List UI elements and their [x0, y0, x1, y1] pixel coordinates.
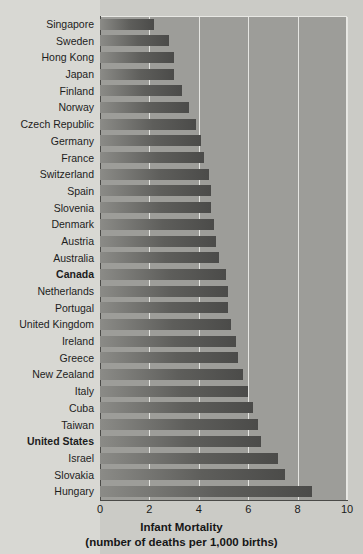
- category-label: Greece: [60, 350, 94, 366]
- bar-row: Denmark: [0, 216, 363, 232]
- bar: [100, 19, 154, 30]
- bar-row: Hong Kong: [0, 49, 363, 65]
- bar: [100, 286, 228, 297]
- x-axis-line: [100, 500, 348, 501]
- category-label: Cuba: [69, 400, 94, 416]
- bar-row: United Kingdom: [0, 316, 363, 332]
- bar: [100, 336, 236, 347]
- bar-row: Slovenia: [0, 200, 363, 216]
- bar-row: Italy: [0, 383, 363, 399]
- x-tick-label: 8: [295, 502, 301, 516]
- bar: [100, 319, 231, 330]
- category-label: Netherlands: [37, 283, 94, 299]
- bar-row: Hungary: [0, 483, 363, 499]
- chart-title: Infant Mortality: [0, 520, 363, 535]
- category-label: Hungary: [54, 483, 94, 499]
- bar: [100, 369, 243, 380]
- bar-row: Netherlands: [0, 283, 363, 299]
- bar: [100, 169, 209, 180]
- category-label: Czech Republic: [20, 116, 94, 132]
- bar: [100, 236, 216, 247]
- bar-row: Germany: [0, 133, 363, 149]
- bar: [100, 252, 219, 263]
- bar-row: Japan: [0, 66, 363, 82]
- category-label: Taiwan: [61, 417, 94, 433]
- x-tick-label: 0: [97, 502, 103, 516]
- category-label: Ireland: [62, 333, 94, 349]
- bar-row: Singapore: [0, 16, 363, 32]
- bar-row: Cuba: [0, 400, 363, 416]
- bar-row: Spain: [0, 183, 363, 199]
- category-label: Slovenia: [54, 200, 94, 216]
- category-label: Italy: [75, 383, 94, 399]
- bar-row: Canada: [0, 266, 363, 282]
- bar-row: Finland: [0, 83, 363, 99]
- bar: [100, 52, 174, 63]
- bar: [100, 202, 211, 213]
- bar: [100, 102, 189, 113]
- bar: [100, 469, 285, 480]
- category-label: Austria: [61, 233, 94, 249]
- bar: [100, 135, 201, 146]
- category-label: France: [61, 150, 94, 166]
- bar: [100, 453, 278, 464]
- bar-row: Austria: [0, 233, 363, 249]
- bar-row: France: [0, 150, 363, 166]
- category-label: Australia: [53, 250, 94, 266]
- category-label: Singapore: [46, 16, 94, 32]
- bar: [100, 152, 204, 163]
- bar-row: Greece: [0, 350, 363, 366]
- category-label: United Kingdom: [19, 316, 94, 332]
- bar-row: Israel: [0, 450, 363, 466]
- category-label: Sweden: [56, 33, 94, 49]
- bar: [100, 486, 312, 497]
- chart-subtitle: (number of deaths per 1,000 births): [0, 535, 363, 550]
- category-label: Finland: [60, 83, 94, 99]
- x-tick-label: 6: [245, 502, 251, 516]
- bar-row: Norway: [0, 99, 363, 115]
- category-label: Norway: [58, 99, 94, 115]
- category-label: United States: [27, 433, 94, 449]
- bar-row: Slovakia: [0, 467, 363, 483]
- bar-row: Czech Republic: [0, 116, 363, 132]
- category-label: Slovakia: [54, 467, 94, 483]
- bar-row: Portugal: [0, 300, 363, 316]
- bar: [100, 35, 169, 46]
- category-label: Switzerland: [40, 166, 94, 182]
- bar: [100, 402, 253, 413]
- category-label: Germany: [51, 133, 94, 149]
- bar: [100, 419, 258, 430]
- category-label: Japan: [65, 66, 94, 82]
- x-axis-tick-labels: 0246810: [0, 502, 363, 518]
- bar: [100, 185, 211, 196]
- bar-row: New Zealand: [0, 366, 363, 382]
- category-label: Israel: [68, 450, 94, 466]
- bar: [100, 352, 238, 363]
- category-label: New Zealand: [32, 366, 94, 382]
- infant-mortality-bar-chart: SingaporeSwedenHong KongJapanFinlandNorw…: [0, 0, 363, 554]
- bar: [100, 119, 196, 130]
- x-tick-label: 10: [341, 502, 353, 516]
- bar: [100, 302, 228, 313]
- bar-row: Switzerland: [0, 166, 363, 182]
- x-tick-label: 2: [146, 502, 152, 516]
- bar-row: Taiwan: [0, 417, 363, 433]
- bar-row: Sweden: [0, 33, 363, 49]
- category-label: Denmark: [51, 216, 94, 232]
- bar-row: Ireland: [0, 333, 363, 349]
- bar-row: United States: [0, 433, 363, 449]
- category-label: Portugal: [55, 300, 94, 316]
- bar: [100, 269, 226, 280]
- category-label: Canada: [56, 266, 94, 282]
- x-tick-label: 4: [196, 502, 202, 516]
- bar: [100, 85, 182, 96]
- category-label: Spain: [67, 183, 94, 199]
- bar: [100, 436, 261, 447]
- bar-rows: SingaporeSwedenHong KongJapanFinlandNorw…: [0, 16, 363, 500]
- bar: [100, 69, 174, 80]
- bar: [100, 386, 248, 397]
- category-label: Hong Kong: [41, 49, 94, 65]
- bar-row: Australia: [0, 250, 363, 266]
- bar: [100, 219, 214, 230]
